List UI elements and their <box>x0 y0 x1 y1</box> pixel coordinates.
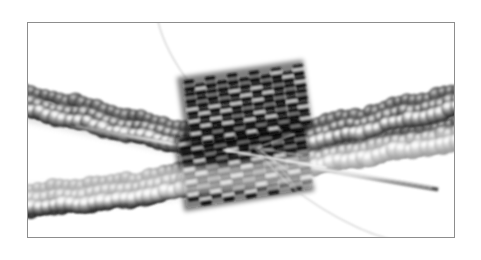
photo-frame <box>27 22 455 238</box>
photo-image <box>28 23 454 237</box>
page-root <box>0 0 481 260</box>
beadwork-illustration <box>28 23 454 237</box>
